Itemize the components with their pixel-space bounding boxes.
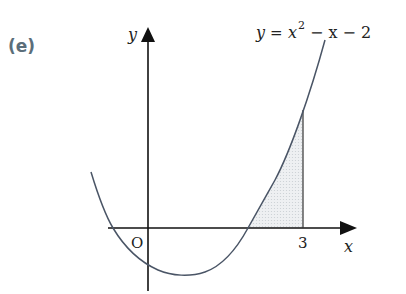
- y-axis-arrow-icon: [141, 27, 155, 42]
- equation-x: x: [288, 23, 297, 42]
- x-axis-label: x: [344, 237, 353, 256]
- shaded-region: [248, 110, 303, 228]
- equation-equals: =: [270, 24, 283, 42]
- x-tick-3-label: 3: [298, 234, 308, 252]
- origin-label: O: [131, 234, 143, 252]
- equation-rest: − x − 2: [310, 23, 371, 42]
- equation-label: y = x 2 − x − 2: [255, 19, 371, 42]
- equation-y: y: [255, 23, 266, 42]
- equation-exponent: 2: [298, 19, 305, 32]
- x-axis-arrow-icon: [340, 221, 357, 235]
- y-axis-label: y: [127, 25, 138, 44]
- graph: y x O 3 y = x 2 − x − 2: [0, 0, 406, 294]
